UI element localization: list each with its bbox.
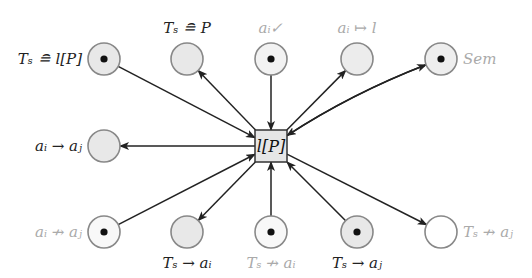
place-circle <box>425 216 457 248</box>
diagram-canvas: l[P]Tₛ ≘ l[P]Tₛ ≘ Paᵢ✓aᵢ ↦ lSemaᵢ → aⱼaᵢ… <box>0 0 532 278</box>
place-label: Sem <box>463 50 496 68</box>
nodes-layer: l[P]Tₛ ≘ l[P]Tₛ ≘ Paᵢ✓aᵢ ↦ lSemaᵢ → aⱼaᵢ… <box>18 19 513 272</box>
place-label: aᵢ ↦ l <box>338 19 377 37</box>
place-p3: aᵢ✓ <box>255 19 287 75</box>
place-p11: Tₛ ↛ aⱼ <box>425 216 513 248</box>
transition-label: l[P] <box>257 137 286 156</box>
place-label: aᵢ✓ <box>259 19 284 37</box>
arc-p10-to-lP <box>287 162 346 221</box>
place-p1: Tₛ ≘ l[P] <box>18 43 120 75</box>
place-circle <box>88 130 120 162</box>
place-label: Tₛ ↛ aᵢ <box>246 254 295 272</box>
place-circle <box>341 43 373 75</box>
token-dot-icon <box>353 228 360 235</box>
place-circle <box>171 43 203 75</box>
place-circle <box>171 216 203 248</box>
arc-lP-to-p11 <box>287 154 427 225</box>
place-label: Tₛ ≘ P <box>163 19 212 37</box>
transition-lP: l[P] <box>255 130 287 162</box>
place-p6: aᵢ → aⱼ <box>35 130 120 162</box>
arc-lP-to-p2 <box>198 71 255 130</box>
arc-lP-to-p4 <box>287 70 346 130</box>
place-p2: Tₛ ≘ P <box>163 19 212 75</box>
token-dot-icon <box>267 228 274 235</box>
place-label: aᵢ ↛ aⱼ <box>35 223 82 241</box>
token-dot-icon <box>100 55 107 62</box>
token-dot-icon <box>437 55 444 62</box>
place-p8: Tₛ → aᵢ <box>162 216 211 272</box>
place-p5: Sem <box>425 43 496 75</box>
token-dot-icon <box>100 228 107 235</box>
place-label: Tₛ → aⱼ <box>332 254 382 272</box>
token-dot-icon <box>267 55 274 62</box>
place-label: aᵢ → aⱼ <box>35 137 82 155</box>
place-label: Tₛ ≘ l[P] <box>18 50 82 68</box>
place-p10: Tₛ → aⱼ <box>332 216 382 272</box>
place-p9: Tₛ ↛ aᵢ <box>246 216 295 272</box>
arc-p1-to-lP <box>118 66 255 137</box>
arc-p7-to-lP <box>118 154 255 224</box>
place-label: Tₛ → aᵢ <box>162 254 211 272</box>
place-label: Tₛ ↛ aⱼ <box>463 223 513 241</box>
place-p4: aᵢ ↦ l <box>338 19 377 75</box>
place-p7: aᵢ ↛ aⱼ <box>35 216 120 248</box>
arc-lP-to-p8 <box>198 162 255 221</box>
petri-net-diagram: l[P]Tₛ ≘ l[P]Tₛ ≘ Paᵢ✓aᵢ ↦ lSemaᵢ → aⱼaᵢ… <box>0 0 532 278</box>
